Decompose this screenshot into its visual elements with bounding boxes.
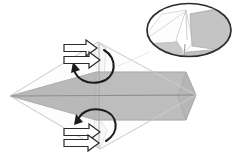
magnified-detail-inset — [140, 4, 234, 59]
figure-canvas — [0, 0, 241, 154]
main-model-group — [10, 42, 196, 149]
origami-figure — [0, 0, 241, 154]
